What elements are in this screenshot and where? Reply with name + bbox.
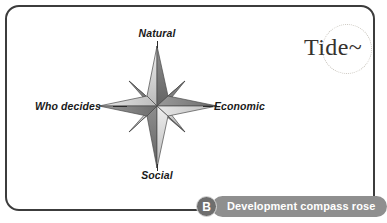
- caption-badge-letter: B: [202, 201, 211, 213]
- logo-wordmark: Tide~: [304, 34, 362, 61]
- caption-text: Development compass rose: [227, 196, 376, 217]
- figure-container: Natural Social Who decides Economic Tide…: [0, 0, 387, 223]
- caption-badge: B: [196, 196, 217, 217]
- leader-line-east: [203, 106, 213, 107]
- compass-label-who-decides: Who decides: [35, 100, 101, 112]
- tide-logo: Tide~: [300, 22, 378, 76]
- compass-rose-graphic: [97, 44, 221, 170]
- compass-label-social: Social: [0, 169, 314, 181]
- compass-label-economic: Economic: [214, 100, 265, 112]
- leader-line-west: [113, 106, 127, 107]
- compass-label-natural: Natural: [0, 27, 314, 39]
- leader-line-north: [157, 41, 158, 48]
